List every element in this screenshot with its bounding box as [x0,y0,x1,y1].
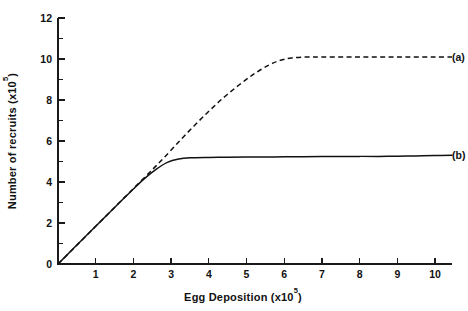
x-axis-title: Egg Deposition (x105) [184,286,302,304]
x-tick-label-3: 3 [168,268,174,280]
axes [58,18,452,265]
y-axis-ticks [58,18,65,264]
x-tick-label-5: 5 [244,268,250,280]
data-curves [58,57,452,264]
x-tick-label-9: 9 [394,268,400,280]
curve-series-b [58,155,452,264]
series-labels: (a)(b) [452,51,465,161]
curve-series-a [58,57,452,264]
recruitment-curve-chart: 12345678910 024681012 (a)(b) Egg Deposit… [0,0,468,311]
y-tick-label-8: 8 [46,94,52,106]
y-axis-tick-labels: 024681012 [40,12,52,270]
x-tick-label-7: 7 [319,268,325,280]
chart-figure: 12345678910 024681012 (a)(b) Egg Deposit… [0,0,468,311]
y-tick-label-0: 0 [46,258,52,270]
y-tick-label-4: 4 [46,176,52,188]
y-tick-label-6: 6 [46,135,52,147]
x-tick-label-4: 4 [206,268,212,280]
x-axis-ticks [96,258,435,264]
x-tick-label-1: 1 [93,268,99,280]
x-axis-tick-labels: 12345678910 [93,268,441,280]
x-tick-label-6: 6 [281,268,287,280]
y-tick-label-12: 12 [40,12,52,24]
y-tick-label-2: 2 [46,217,52,229]
x-tick-label-10: 10 [429,268,441,280]
x-tick-label-2: 2 [130,268,136,280]
y-axis-title: Number of recruits (x105) [1,73,19,209]
series-label-a: (a) [452,51,465,63]
y-tick-label-10: 10 [40,53,52,65]
series-label-b: (b) [452,149,465,161]
x-tick-label-8: 8 [357,268,363,280]
